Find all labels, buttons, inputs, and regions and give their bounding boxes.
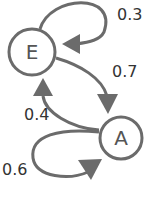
edge-label-e-to-a: 0.7	[112, 62, 137, 81]
markov-diagram: 0.3 0.7 0.4 0.6 E A	[0, 0, 151, 197]
edge-label-a-to-a: 0.6	[2, 160, 27, 179]
edge-label-a-to-e: 0.4	[24, 105, 49, 124]
node-e: E	[9, 29, 55, 75]
arrowhead-a-to-a-icon	[78, 159, 102, 180]
node-a: A	[100, 117, 142, 159]
edge-e-to-a	[56, 58, 107, 96]
edge-a-to-e	[43, 96, 99, 130]
arrowhead-e-to-a-icon	[97, 94, 118, 114]
node-a-label: A	[114, 126, 128, 150]
arrowhead-a-to-e-icon	[33, 78, 53, 96]
arrowhead-e-to-e-icon	[62, 34, 80, 54]
node-e-label: E	[26, 40, 39, 64]
edge-label-e-to-e: 0.3	[117, 5, 142, 24]
